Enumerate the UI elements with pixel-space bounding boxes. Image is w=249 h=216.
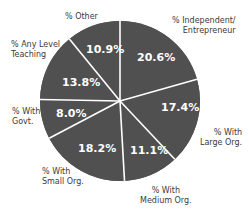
- label-independent: % Independent/ Entrepreneur: [172, 16, 236, 36]
- value-large-org: 17.4%: [161, 101, 199, 114]
- value-teaching: 13.8%: [62, 76, 100, 89]
- label-teaching: % Any Level Teaching: [11, 40, 60, 60]
- label-other: % Other: [65, 12, 98, 22]
- value-small-org: 18.2%: [78, 142, 116, 155]
- label-large-org: % With Large Org.: [200, 128, 242, 148]
- value-independent: 20.6%: [137, 51, 175, 64]
- value-medium-org: 11.1%: [130, 144, 168, 157]
- value-other: 10.9%: [86, 43, 124, 56]
- value-govt: 8.0%: [56, 107, 87, 120]
- label-govt: % With Govt.: [12, 107, 40, 127]
- label-small-org: % With Small Org.: [42, 167, 84, 187]
- label-medium-org: % With Medium Org.: [140, 186, 192, 206]
